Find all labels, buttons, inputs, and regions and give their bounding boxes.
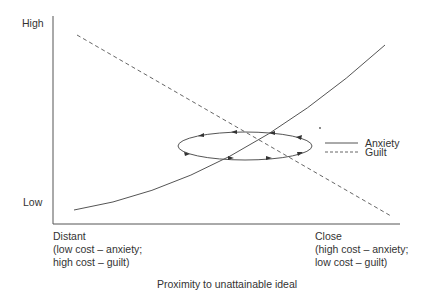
x-tick-close-line1: (high cost – anxiety; xyxy=(315,243,408,256)
guilt-line xyxy=(77,35,391,216)
x-tick-close-line2: low cost – guilt) xyxy=(315,256,387,269)
y-tick-low: Low xyxy=(23,196,42,209)
x-tick-close-title: Close xyxy=(315,230,342,243)
marker-dot xyxy=(319,127,321,129)
y-tick-high: High xyxy=(22,17,44,30)
legend-guilt-label: Guilt xyxy=(365,146,387,159)
cycle-ellipse xyxy=(178,132,312,160)
x-axis-label: Proximity to unattainable ideal xyxy=(157,278,297,291)
x-tick-distant-line1: (low cost – anxiety; xyxy=(53,243,142,256)
x-tick-distant-title: Distant xyxy=(53,230,86,243)
x-tick-distant-line2: high cost – guilt) xyxy=(53,256,129,269)
cycle-arrows-bottom xyxy=(184,152,303,160)
